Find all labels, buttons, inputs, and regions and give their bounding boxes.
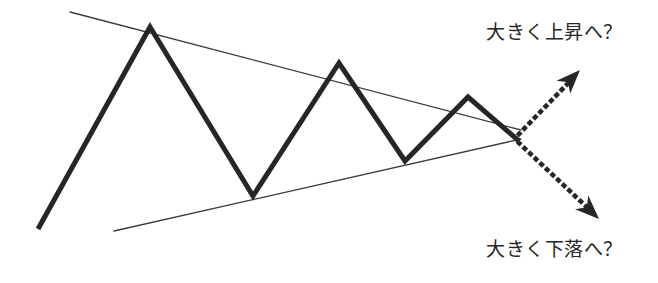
breakout-down-label: 大きく下落へ？ — [486, 234, 623, 261]
technical-analysis-figure: 大きく上昇へ？ 大きく下落へ？ — [0, 0, 658, 283]
breakout-up-label: 大きく上昇へ？ — [486, 17, 623, 44]
